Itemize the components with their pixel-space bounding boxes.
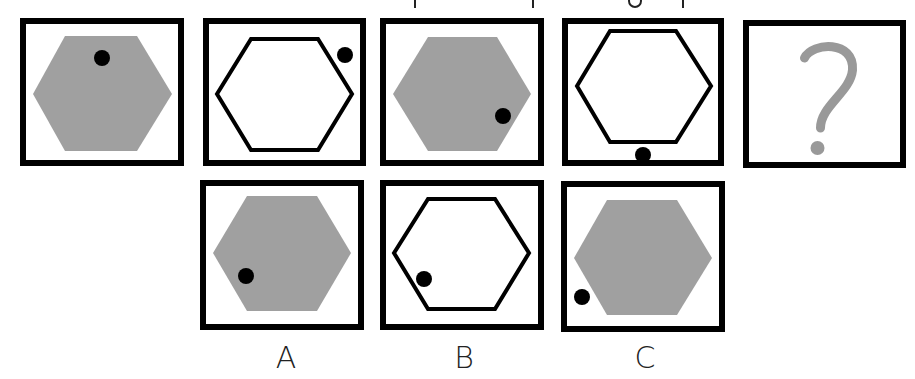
option-label-c: C: [635, 343, 656, 373]
option-b-frame[interactable]: [383, 183, 541, 327]
puzzle-stage: A B C: [0, 0, 915, 379]
option-label-b: B: [454, 343, 474, 373]
sequence-panel-3-dot: [495, 108, 511, 124]
question-mark-dot: [811, 141, 825, 155]
option-label-a: A: [276, 343, 297, 373]
sequence-panel-4-dot: [635, 147, 651, 163]
sequence-panel-1-dot: [94, 50, 110, 66]
option-c-dot: [574, 289, 590, 305]
option-b-dot: [416, 271, 432, 287]
sequence-panel-2-frame: [206, 21, 363, 163]
sequence-panel-2-dot: [337, 47, 353, 63]
option-a-dot: [238, 268, 254, 284]
puzzle-figure: [0, 0, 915, 379]
